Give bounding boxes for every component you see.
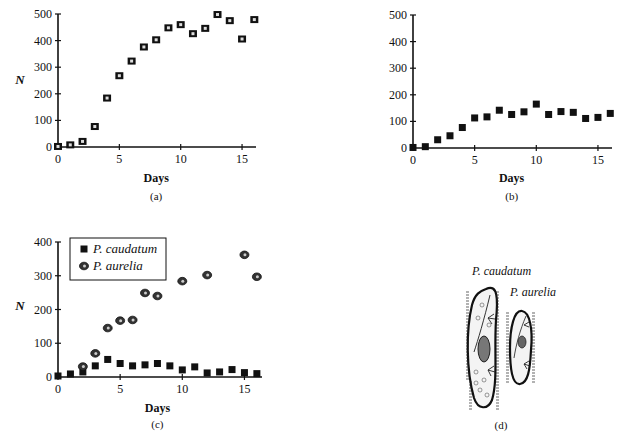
x-tick-label: 0 <box>55 382 61 396</box>
y-tick-label: 400 <box>389 35 407 49</box>
y-tick-label: 400 <box>34 235 52 249</box>
y-tick-label: 200 <box>389 88 407 102</box>
x-tick-label: 10 <box>530 153 542 167</box>
y-tick-label: 0 <box>401 141 407 155</box>
y-tick-label: 0 <box>46 140 52 154</box>
label-p-aurelia: P. aurelia <box>509 285 556 299</box>
panel-caption: (d) <box>495 419 508 432</box>
chart-b: 0510150100200300400500Days(b) <box>389 8 614 203</box>
label-p-caudatum: P. caudatum <box>471 264 531 278</box>
panel-d-illustration: P. caudatumP. aurelia(d) <box>466 264 556 432</box>
x-tick-label: 10 <box>176 382 188 396</box>
chart-c: 0510150100200300400DaysN(c)P. caudatumP.… <box>14 235 262 431</box>
x-tick-label: 0 <box>55 152 61 166</box>
y-tick-label: 100 <box>34 113 52 127</box>
y-tick-label: 400 <box>34 34 52 48</box>
x-tick-label: 10 <box>175 152 187 166</box>
figure-canvas: 0510150100200300400500DaysN(a)0510150100… <box>0 0 622 444</box>
x-axis-label: Days <box>143 171 169 185</box>
y-tick-label: 200 <box>34 87 52 101</box>
y-tick-label: 200 <box>34 303 52 317</box>
p-caudatum-cell-icon <box>466 288 499 409</box>
y-tick-label: 500 <box>34 7 52 21</box>
legend-entry: P. caudatum <box>92 241 157 256</box>
x-axis-label: Days <box>499 171 525 185</box>
legend: P. caudatumP. aurelia <box>70 238 166 280</box>
x-tick-label: 5 <box>117 382 123 396</box>
series-hollow-square <box>54 11 258 150</box>
x-tick-label: 15 <box>592 153 604 167</box>
y-tick-label: 100 <box>34 336 52 350</box>
y-tick-label: 0 <box>46 370 52 384</box>
panel-caption: (a) <box>150 190 163 203</box>
panel-caption: (c) <box>151 418 164 431</box>
series-filled-square <box>410 101 614 151</box>
x-tick-label: 5 <box>116 152 122 166</box>
x-axis-label: Days <box>145 401 171 415</box>
y-axis-label: N <box>14 72 25 87</box>
y-tick-label: 500 <box>389 8 407 22</box>
p-aurelia-cell-icon <box>506 311 535 384</box>
y-tick-label: 100 <box>389 114 407 128</box>
x-tick-label: 0 <box>410 153 416 167</box>
x-tick-label: 5 <box>472 153 478 167</box>
y-tick-label: 300 <box>389 61 407 75</box>
legend-entry: P. aurelia <box>92 258 143 273</box>
chart-a: 0510150100200300400500DaysN(a) <box>14 7 258 203</box>
x-tick-label: 15 <box>238 382 250 396</box>
y-tick-label: 300 <box>34 269 52 283</box>
y-axis-label: N <box>14 298 25 313</box>
x-tick-label: 15 <box>236 152 248 166</box>
panel-caption: (b) <box>505 190 518 203</box>
y-tick-label: 300 <box>34 60 52 74</box>
